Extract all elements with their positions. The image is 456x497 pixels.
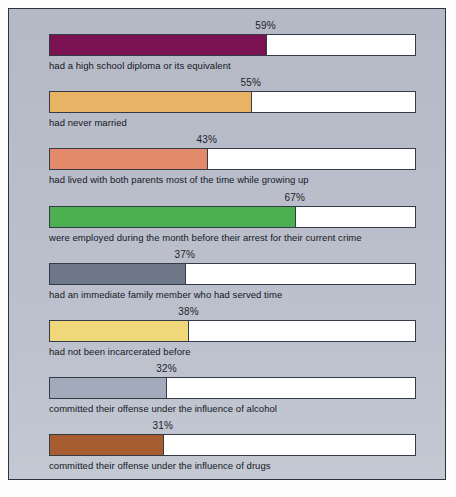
- bar-category-label: committed their offense under the influe…: [49, 459, 271, 472]
- bar-category-label: had lived with both parents most of the …: [49, 173, 309, 186]
- bar-track: [49, 148, 416, 170]
- bar-fill: [50, 321, 189, 341]
- bar-value-label: 32%: [156, 362, 177, 376]
- bar-value-label: 67%: [285, 191, 306, 205]
- chart-frame: 59%had a high school diploma or its equi…: [8, 8, 446, 480]
- bar-value-label: 31%: [152, 419, 173, 433]
- bar-fill: [50, 92, 252, 112]
- bar-category-label: had not been incarcerated before: [49, 345, 191, 358]
- bar-fill: [50, 378, 167, 398]
- bar-track: [49, 434, 416, 456]
- bar-value-label: 59%: [255, 19, 276, 33]
- bar-fill: [50, 207, 296, 227]
- bar-value-label: 43%: [196, 133, 217, 147]
- bar-value-label: 38%: [178, 305, 199, 319]
- bar-fill: [50, 435, 164, 455]
- figure-canvas: 59%had a high school diploma or its equi…: [0, 0, 456, 497]
- bar-track: [49, 320, 416, 342]
- bar-value-label: 55%: [241, 76, 262, 90]
- bar-category-label: committed their offense under the influe…: [49, 402, 277, 415]
- bar-track: [49, 263, 416, 285]
- bar-category-label: had never married: [49, 116, 127, 129]
- bar-track: [49, 91, 416, 113]
- bar-category-label: were employed during the month before th…: [49, 231, 362, 244]
- bar-value-label: 37%: [174, 248, 195, 262]
- bar-track: [49, 206, 416, 228]
- bar-fill: [50, 149, 208, 169]
- bar-track: [49, 34, 416, 56]
- bar-fill: [50, 264, 186, 284]
- bar-category-label: had an immediate family member who had s…: [49, 288, 282, 301]
- bar-category-label: had a high school diploma or its equival…: [49, 59, 231, 72]
- bar-fill: [50, 35, 267, 55]
- chart-panel: 59%had a high school diploma or its equi…: [9, 9, 445, 479]
- bar-track: [49, 377, 416, 399]
